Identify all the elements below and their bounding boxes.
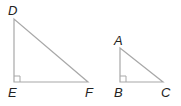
vertex-label-c: C bbox=[161, 85, 171, 100]
vertex-label-f: F bbox=[85, 85, 94, 100]
right-angle-marker-e bbox=[14, 76, 20, 82]
triangle-def: D E F bbox=[8, 3, 94, 100]
vertex-label-b: B bbox=[114, 85, 123, 100]
right-angle-marker-b bbox=[120, 76, 126, 82]
vertex-label-a: A bbox=[113, 33, 123, 48]
triangle-def-outline bbox=[14, 19, 88, 82]
diagram-canvas: D E F A B C bbox=[0, 0, 181, 106]
vertex-label-e: E bbox=[8, 85, 17, 100]
triangle-abc: A B C bbox=[113, 33, 171, 100]
vertex-label-d: D bbox=[8, 3, 17, 18]
